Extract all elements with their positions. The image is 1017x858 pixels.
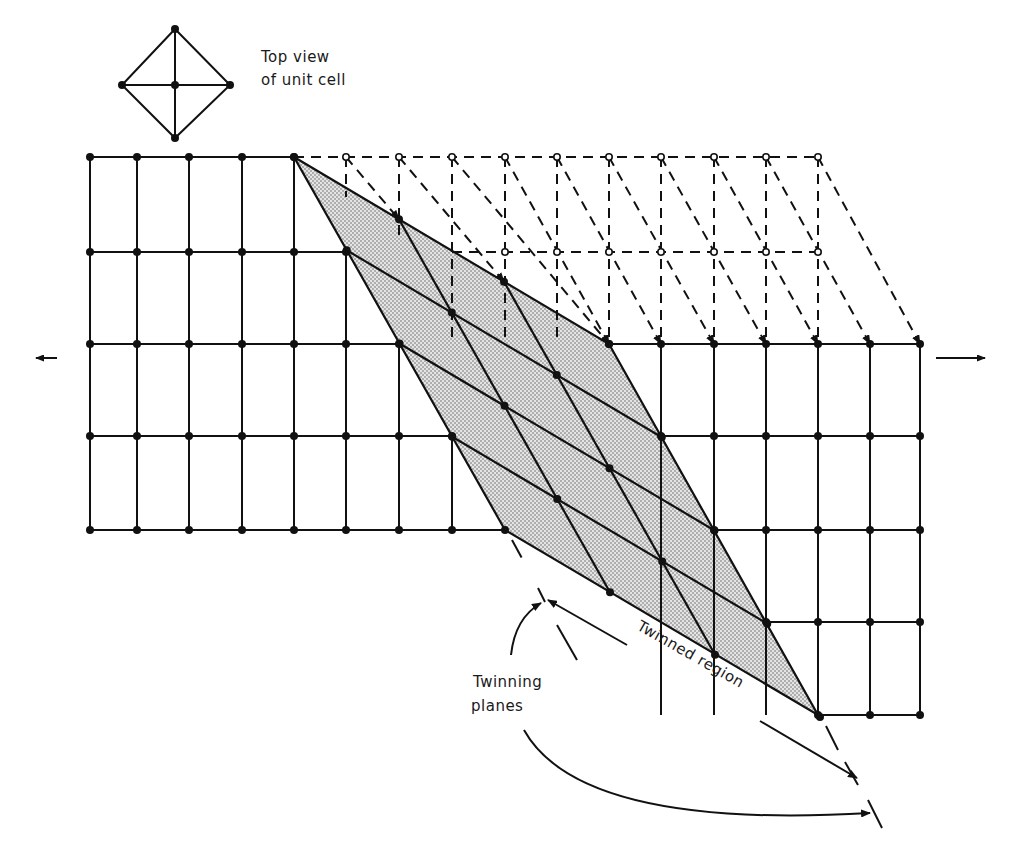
inset-label-line2: of unit cell	[261, 71, 346, 89]
twinning-plane-arrow-lower	[524, 730, 870, 815]
twinning-label-line1: Twinning	[472, 673, 542, 691]
twinning-label-line2: planes	[471, 697, 523, 715]
inset-label-line1: Top view	[260, 48, 330, 66]
twinning-plane-arrow-upper	[511, 603, 541, 655]
twinning-diagram: Top view of unit cell Twinned region Twi…	[0, 0, 1017, 858]
